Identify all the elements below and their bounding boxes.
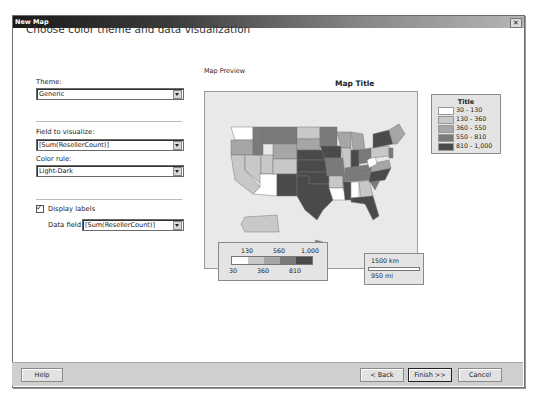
- display-labels-checkbox[interactable]: [36, 205, 44, 213]
- scale-bar: [231, 256, 313, 265]
- map-legend: Title 30 - 130 130 - 360 360 - 550 550 -…: [431, 94, 501, 154]
- legend-item: 30 - 130: [432, 106, 500, 115]
- field-value: [Sum(ResellerCount)]: [39, 140, 109, 150]
- close-icon: ✕: [513, 19, 519, 27]
- distance-scale: 1500 km 950 mi: [364, 253, 424, 285]
- legend-item: 550 - 810: [432, 133, 500, 142]
- color-rule-label: Color rule:: [36, 155, 71, 163]
- state-mn: [320, 127, 337, 146]
- distance-bar: [368, 267, 420, 271]
- data-field-value: [Sum(ResellerCount)]: [85, 220, 155, 230]
- footer-bar: Help < Back Finish >> Cancel: [12, 362, 523, 386]
- page-heading: Choose color theme and data visualizatio…: [26, 23, 250, 35]
- state-fl: [351, 196, 379, 220]
- chevron-down-icon[interactable]: [173, 221, 182, 230]
- legend-range: 550 - 810: [456, 133, 486, 141]
- data-field-label: Data field:: [48, 221, 83, 229]
- scale-label-bottom: 30: [229, 267, 237, 274]
- state-ne: [297, 150, 325, 160]
- state-ks: [297, 160, 327, 172]
- state-mo: [325, 158, 345, 176]
- legend-range: 810 - 1,000: [456, 142, 492, 150]
- color-rule-value: Light-Dark: [39, 166, 73, 176]
- scale-label-top: 560: [273, 247, 285, 254]
- scale-segment: [248, 257, 264, 264]
- help-button[interactable]: Help: [21, 368, 63, 382]
- chevron-down-icon[interactable]: [173, 90, 182, 99]
- state-nm: [277, 174, 297, 196]
- state-ut: [261, 155, 273, 174]
- divider: [36, 199, 182, 200]
- chevron-down-icon[interactable]: [173, 141, 182, 150]
- legend-title: Title: [432, 98, 500, 106]
- scale-segment: [264, 257, 280, 264]
- theme-dropdown[interactable]: Generic: [36, 88, 184, 100]
- state-ar: [329, 176, 343, 188]
- scale-segment: [296, 257, 312, 264]
- state-nd: [297, 127, 320, 139]
- theme-value: Generic: [39, 89, 64, 99]
- legend-swatch: [438, 143, 454, 151]
- state-in: [351, 150, 359, 168]
- legend-item: 130 - 360: [432, 115, 500, 124]
- legend-item: 810 - 1,000: [432, 142, 500, 151]
- close-button[interactable]: ✕: [510, 18, 522, 28]
- scale-segment: [280, 257, 296, 264]
- legend-swatch: [438, 116, 454, 124]
- state-nj: [389, 148, 393, 158]
- distance-mi: 950 mi: [371, 272, 393, 279]
- legend-range: 30 - 130: [456, 106, 482, 114]
- legend-range: 360 - 550: [456, 124, 486, 132]
- distance-km: 1500 km: [371, 257, 399, 264]
- legend-range: 130 - 360: [456, 115, 486, 123]
- legend-swatch: [438, 134, 454, 142]
- legend-swatch: [438, 107, 454, 115]
- state-wa: [231, 127, 253, 140]
- legend-swatch: [438, 125, 454, 133]
- state-wy: [273, 144, 297, 159]
- scale-label-top: 130: [241, 247, 253, 254]
- field-label: Field to visualize:: [36, 128, 95, 136]
- state-co: [273, 159, 297, 174]
- finish-button[interactable]: Finish >>: [408, 368, 452, 382]
- state-mi: [351, 132, 365, 150]
- divider: [36, 121, 182, 122]
- scale-label-bottom: 810: [289, 267, 301, 274]
- theme-label: Theme:: [36, 78, 62, 86]
- scale-label-top: 1,000: [301, 247, 319, 254]
- scale-label-bottom: 360: [257, 267, 269, 274]
- legend-item: 360 - 550: [432, 124, 500, 133]
- scale-segment: [232, 257, 248, 264]
- color-rule-dropdown[interactable]: Light-Dark: [36, 165, 184, 177]
- cancel-button[interactable]: Cancel: [458, 368, 502, 382]
- state-al: [351, 182, 359, 198]
- state-id: [253, 127, 263, 155]
- display-labels-label: Display labels: [48, 205, 95, 213]
- state-sd: [297, 139, 320, 150]
- state-or: [231, 140, 253, 155]
- map-preview-label: Map Preview: [204, 67, 245, 75]
- state-ak: [241, 215, 279, 232]
- back-button[interactable]: < Back: [360, 368, 404, 382]
- state-wi: [337, 132, 351, 148]
- state-mt: [263, 127, 297, 144]
- data-field-dropdown[interactable]: [Sum(ResellerCount)]: [82, 219, 184, 231]
- field-dropdown[interactable]: [Sum(ResellerCount)]: [36, 139, 184, 151]
- color-scale: 130 560 1,000 30 360 810: [218, 242, 328, 281]
- map-title: Map Title: [335, 79, 374, 88]
- chevron-down-icon[interactable]: [173, 167, 182, 176]
